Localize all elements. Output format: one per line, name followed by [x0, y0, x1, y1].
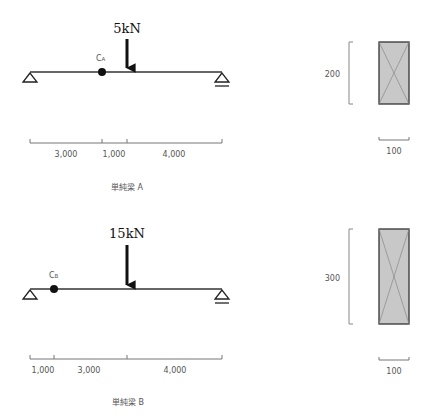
pin-support-icon: [23, 73, 37, 82]
section-b-height-label: 300: [325, 274, 340, 283]
section-a-height-dim: [349, 42, 353, 104]
load-a-label: 5kN: [113, 21, 141, 36]
beam-a: CA 5kN 3,000 1,000 4,000 単純梁 A: [23, 21, 229, 192]
section-a-width-dim: [379, 137, 409, 140]
roller-support-icon: [215, 73, 229, 82]
span-b-1: 1,000: [32, 366, 55, 375]
section-b: 300 100: [325, 229, 409, 376]
pin-support-icon: [23, 290, 37, 299]
beam-diagram: CA 5kN 3,000 1,000 4,000 単純梁 A 200 100: [0, 0, 434, 420]
span-a-3: 4,000: [163, 150, 186, 159]
section-b-width-label: 100: [386, 367, 401, 376]
section-b-width-dim: [379, 357, 409, 360]
load-b-label: 15kN: [109, 226, 145, 241]
roller-support-icon: [215, 290, 229, 299]
beam-b-title: 単純梁 B: [112, 397, 144, 407]
span-b-3: 4,000: [164, 366, 187, 375]
point-cb-label: CB: [49, 271, 59, 280]
span-a-1: 3,000: [55, 150, 78, 159]
point-cb-marker: [50, 285, 58, 293]
point-ca-marker: [98, 68, 106, 76]
span-a-2: 1,000: [103, 150, 126, 159]
beam-b: CB 15kN 1,000 3,000 4,000 単純梁 B: [23, 226, 229, 407]
section-a-height-label: 200: [325, 70, 340, 79]
span-b-2: 3,000: [78, 366, 101, 375]
dimension-line-a: [30, 139, 222, 143]
dimension-line-b: [30, 355, 222, 359]
section-a: 200 100: [325, 42, 409, 156]
section-a-width-label: 100: [386, 147, 401, 156]
point-ca-label: CA: [96, 54, 106, 63]
section-b-height-dim: [349, 229, 353, 324]
beam-a-title: 単純梁 A: [111, 182, 144, 192]
